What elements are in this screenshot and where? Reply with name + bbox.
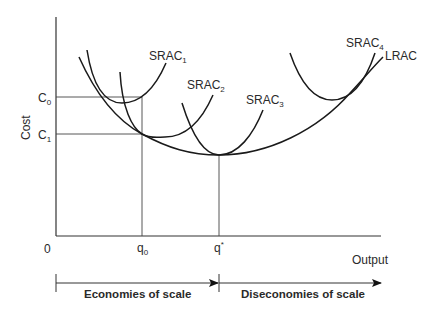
y-axis-title: Cost [19, 115, 33, 140]
srac3-curve [182, 103, 263, 155]
srac3-label: SRAC3 [246, 93, 284, 109]
origin-label: 0 [44, 242, 51, 256]
x-axis-title: Output [352, 253, 389, 267]
diagram-canvas: SRAC1 SRAC2 SRAC3 SRAC4 LRAC Cost Output… [0, 0, 430, 310]
q0-label: q0 [137, 241, 149, 257]
srac4-label: SRAC4 [346, 36, 384, 52]
diseconomies-of-scale-label: Diseconomies of scale [241, 288, 365, 300]
srac1-label: SRAC1 [149, 49, 187, 65]
lrac-label: LRAC [385, 49, 417, 63]
srac2-label: SRAC2 [187, 78, 225, 94]
srac4-curve [290, 53, 375, 100]
c0-label: C0 [38, 91, 52, 107]
c1-label: C1 [38, 128, 52, 144]
cost-curves-diagram: SRAC1 SRAC2 SRAC3 SRAC4 LRAC Cost Output… [0, 0, 430, 310]
economies-of-scale-label: Economies of scale [84, 288, 191, 300]
qstar-label: q* [214, 240, 224, 255]
